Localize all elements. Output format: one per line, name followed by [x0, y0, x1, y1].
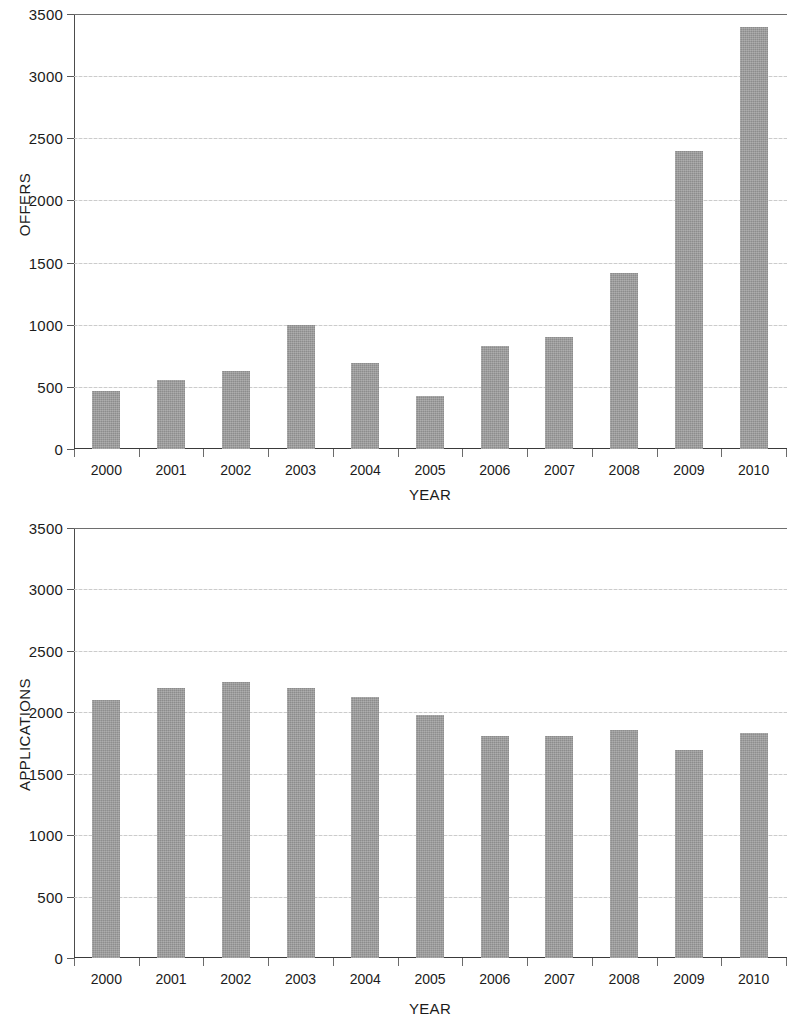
x-axis-category-label: 2005 [414, 462, 445, 478]
x-axis-tick [657, 958, 658, 966]
x-axis-category-label: 2000 [91, 971, 122, 987]
x-axis-tick [139, 449, 140, 457]
x-axis-category-label: 2003 [285, 462, 316, 478]
bar [351, 697, 379, 958]
y-axis-tick-label: 1500 [29, 254, 63, 271]
x-axis-tick [268, 449, 269, 457]
plot-top-rule [74, 528, 787, 529]
y-axis-line-applications [74, 528, 75, 958]
y-axis-tick [67, 712, 74, 713]
x-axis-category-label: 2007 [544, 462, 575, 478]
x-axis-tick [333, 958, 334, 966]
x-axis-tick [592, 958, 593, 966]
bar [545, 337, 573, 449]
bar [740, 733, 768, 958]
y-axis-tick [67, 528, 74, 529]
gridline [74, 589, 787, 590]
bar [481, 346, 509, 449]
y-axis-tick-label: 2000 [29, 704, 63, 721]
x-axis-category-label: 2009 [673, 971, 704, 987]
x-axis-tick [74, 958, 75, 966]
bar [675, 151, 703, 449]
x-axis-tick [527, 958, 528, 966]
y-axis-tick [67, 263, 74, 264]
y-axis-tick-label: 500 [37, 888, 63, 905]
bar [416, 715, 444, 958]
y-axis-tick-label: 0 [54, 950, 63, 967]
bar [610, 730, 638, 958]
x-axis-tick [527, 449, 528, 457]
x-axis-category-label: 2000 [91, 462, 122, 478]
y-axis-tick [67, 835, 74, 836]
y-axis-tick [67, 138, 74, 139]
chart-panel-applications: 0500100015002000250030003500200020012002… [0, 512, 786, 1018]
x-axis-category-label: 2002 [220, 462, 251, 478]
bar [740, 27, 768, 449]
x-axis-category-label: 2004 [350, 462, 381, 478]
x-axis-category-label: 2006 [479, 971, 510, 987]
x-axis-tick [398, 449, 399, 457]
y-axis-tick [67, 651, 74, 652]
x-axis-category-label: 2010 [738, 462, 769, 478]
x-axis-tick [333, 449, 334, 457]
y-axis-tick-label: 2500 [29, 642, 63, 659]
x-axis-category-label: 2004 [350, 971, 381, 987]
y-axis-tick-label: 3000 [29, 581, 63, 598]
y-axis-tick [67, 589, 74, 590]
y-axis-tick-label: 2000 [29, 192, 63, 209]
y-axis-title-offers: OFFERS [16, 145, 33, 265]
x-axis-category-label: 2008 [609, 971, 640, 987]
bar [157, 688, 185, 958]
y-axis-tick-label: 3500 [29, 6, 63, 23]
y-axis-line-offers [74, 14, 75, 449]
chart-panel-offers: 0500100015002000250030003500200020012002… [0, 0, 786, 510]
y-axis-tick-label: 1500 [29, 765, 63, 782]
bar [675, 750, 703, 958]
x-axis-tick [74, 449, 75, 457]
y-axis-tick [67, 387, 74, 388]
x-axis-tick [592, 449, 593, 457]
x-axis-title-offers: YEAR [74, 486, 786, 503]
bar [545, 736, 573, 958]
x-axis-tick [721, 449, 722, 457]
plot-area-offers: 0500100015002000250030003500200020012002… [74, 14, 786, 449]
x-axis-tick [721, 958, 722, 966]
gridline [74, 138, 787, 139]
x-axis-tick [203, 449, 204, 457]
y-axis-tick-label: 3000 [29, 68, 63, 85]
gridline [74, 651, 787, 652]
x-axis-category-label: 2007 [544, 971, 575, 987]
bar [416, 396, 444, 449]
y-axis-tick [67, 958, 74, 959]
plot-top-rule [74, 14, 787, 15]
x-axis-tick [268, 958, 269, 966]
y-axis-tick [67, 449, 74, 450]
x-axis-title-applications: YEAR [74, 1000, 786, 1017]
gridline [74, 76, 787, 77]
x-axis-tick [139, 958, 140, 966]
y-axis-tick-label: 0 [54, 441, 63, 458]
y-axis-tick-label: 1000 [29, 827, 63, 844]
y-axis-tick [67, 325, 74, 326]
y-axis-tick [67, 76, 74, 77]
x-axis-category-label: 2001 [156, 462, 187, 478]
x-axis-category-label: 2002 [220, 971, 251, 987]
plot-area-applications: 0500100015002000250030003500200020012002… [74, 528, 786, 958]
y-axis-tick-label: 500 [37, 378, 63, 395]
bar [92, 391, 120, 449]
bar [222, 682, 250, 958]
y-axis-title-applications: APPLICATIONS [16, 649, 33, 821]
x-axis-category-label: 2008 [609, 462, 640, 478]
bar [157, 380, 185, 449]
bar [287, 325, 315, 449]
y-axis-tick [67, 897, 74, 898]
x-axis-tick [462, 449, 463, 457]
bar [222, 371, 250, 449]
x-axis-tick [462, 958, 463, 966]
x-axis-category-label: 2005 [414, 971, 445, 987]
y-axis-tick-label: 2500 [29, 130, 63, 147]
bar [287, 688, 315, 958]
y-axis-tick [67, 200, 74, 201]
x-axis-category-label: 2003 [285, 971, 316, 987]
